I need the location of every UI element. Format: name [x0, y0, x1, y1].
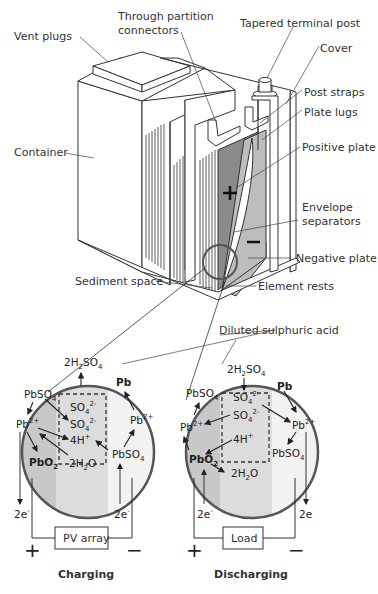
- svg-text:PbSO4: PbSO4: [186, 387, 219, 402]
- charging-minus-terminal: −: [126, 538, 143, 562]
- svg-text:Pb2+: Pb2+: [130, 413, 153, 426]
- charging-caption: Charging: [58, 568, 114, 581]
- label-container: Container: [14, 146, 68, 159]
- svg-text:PbSO4: PbSO4: [24, 388, 57, 403]
- svg-text:2H2SO4: 2H2SO4: [64, 356, 103, 371]
- svg-text:Pb: Pb: [116, 376, 132, 388]
- label-connectors: connectors: [118, 24, 179, 37]
- battery-illustration: [78, 52, 300, 300]
- label-post-straps: Post straps: [304, 86, 365, 99]
- label-tapered-terminal-post: Tapered terminal post: [239, 17, 361, 30]
- charging-plus-terminal: +: [24, 538, 41, 562]
- lead-acid-battery-diagram: Vent plugs Through partition connectors …: [0, 0, 378, 594]
- charging-diagram: 2H2SO4 PbSO4 Pb2+ PbO2 2H2O SO42- SO42- …: [14, 356, 158, 581]
- discharging-caption: Discharging: [214, 568, 288, 581]
- svg-text:2H2SO4: 2H2SO4: [227, 363, 266, 378]
- label-sediment-space: Sediment space: [75, 275, 164, 288]
- label-vent-plugs: Vent plugs: [14, 30, 72, 43]
- discharging-plus-terminal: +: [186, 538, 203, 562]
- load-label: Load: [231, 532, 257, 545]
- svg-text:2e-: 2e-: [197, 507, 213, 520]
- label-envelope: Envelope: [302, 201, 353, 214]
- label-diluted-sulphuric-acid: Diluted sulphuric acid: [219, 324, 339, 337]
- svg-text:2e-: 2e-: [14, 507, 30, 520]
- label-negative-plate: Negative plate: [296, 252, 377, 265]
- svg-text:2e: 2e: [299, 508, 312, 520]
- container-front: [78, 81, 142, 272]
- pv-array-label: PV array: [63, 532, 110, 545]
- discharging-diagram: 2H2SO4 PbSO4 Pb2+ PbO2 2H2O SO42- SO42- …: [180, 363, 322, 581]
- label-positive-plate: Positive plate: [302, 141, 376, 154]
- label-plate-lugs: Plate lugs: [304, 106, 358, 119]
- label-cover: Cover: [320, 42, 353, 55]
- label-element-rests: Element rests: [258, 280, 334, 293]
- label-separators: separators: [302, 215, 361, 228]
- svg-text:Pb: Pb: [277, 380, 293, 392]
- discharging-minus-terminal: −: [288, 538, 305, 562]
- svg-text:2e-: 2e-: [114, 507, 130, 520]
- label-through-partition: Through partition: [117, 10, 214, 23]
